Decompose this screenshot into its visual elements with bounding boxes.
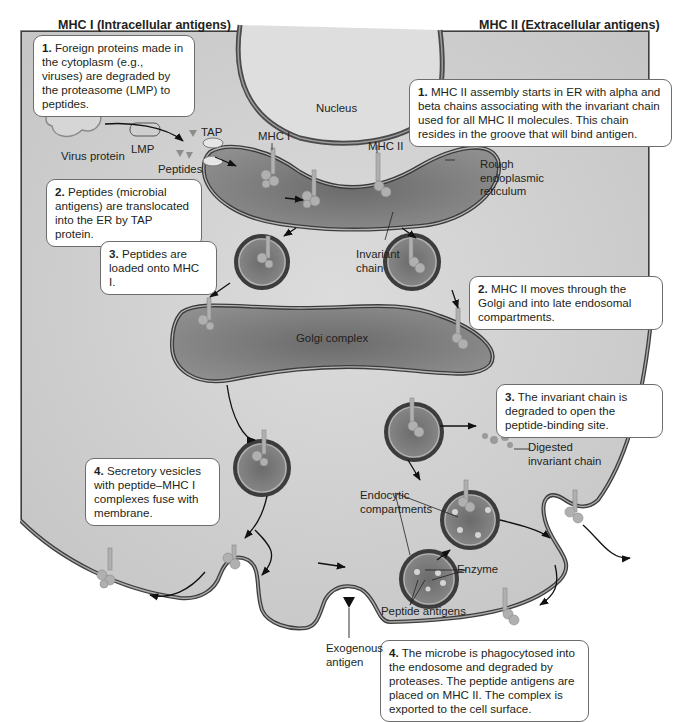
label-virus-protein: Virus protein (61, 150, 125, 164)
step-number: 3. (505, 390, 515, 403)
step-text: The microbe is phagocytosed into the end… (389, 646, 575, 715)
label-peptides: Peptides (158, 163, 202, 177)
label-tap: TAP (201, 126, 222, 140)
step-text: MHC II moves through the Golgi and into … (478, 282, 631, 323)
step-text: Peptides (microbial antigens) are transl… (55, 185, 189, 240)
label-lmp: LMP (131, 143, 154, 157)
label-enzyme: Enzyme (457, 563, 498, 577)
label-exogenous-antigen: Exogenous antigen (326, 642, 382, 669)
label-digested-invariant-chain: Digested invariant chain (528, 441, 608, 468)
mhc2-step-3: 3. The invariant chain is degraded to op… (496, 384, 663, 438)
step-number: 4. (94, 464, 104, 477)
label-golgi: Golgi complex (296, 332, 368, 346)
step-text: Secretory vesicles with peptide–MHC I co… (94, 464, 201, 519)
label-nucleus: Nucleus (316, 102, 357, 116)
mhc1-step-1: 1. Foreign proteins made in the cytoplas… (33, 35, 195, 117)
step-text: Peptides are loaded onto MHC I. (109, 247, 199, 288)
step-number: 3. (109, 247, 119, 260)
label-mhc1: MHC I (258, 130, 290, 144)
exogenous-antigen (343, 597, 355, 638)
step-text: The invariant chain is degraded to open … (505, 390, 627, 431)
mhc2-step-1: 1. MHC II assembly starts in ER with alp… (409, 79, 672, 147)
mhc1-step-3: 3. Peptides are loaded onto MHC I. (100, 241, 217, 295)
step-text: Foreign proteins made in the cytoplasm (… (42, 41, 183, 110)
step-number: 4. (389, 646, 399, 659)
mhc1-header: MHC I (Intracellular antigens) (58, 18, 231, 32)
step-number: 1. (418, 85, 428, 98)
label-invariant-chain: Invariant chain (356, 248, 406, 275)
mhc1-step-2: 2. Peptides (microbial antigens) are tra… (46, 179, 202, 247)
mhc2-step-2: 2. MHC II moves through the Golgi and in… (469, 276, 663, 330)
mhc2-header: MHC II (Extracellular antigens) (479, 18, 660, 32)
step-number: 2. (478, 282, 488, 295)
step-number: 2. (55, 185, 65, 198)
mhc2-step-4: 4. The microbe is phagocytosed into the … (380, 640, 589, 722)
label-peptide-antigens: Peptide antigens (381, 605, 466, 619)
mhc1-step-4: 4. Secretory vesicles with peptide–MHC I… (85, 458, 220, 526)
label-mhc2: MHC II (368, 140, 403, 154)
step-number: 1. (42, 41, 52, 54)
step-text: MHC II assembly starts in ER with alpha … (418, 85, 660, 140)
label-endocytic-compartments: Endocytic compartments (360, 489, 440, 516)
label-rough-er: Rough endoplasmic reticulum (480, 158, 570, 199)
